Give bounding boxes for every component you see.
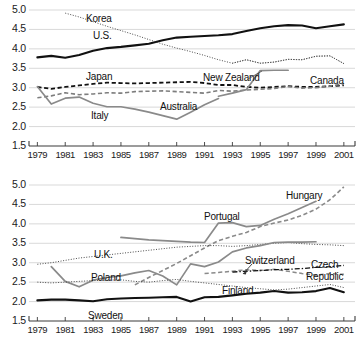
x-tick-label: 1979: [22, 324, 52, 335]
x-tick-label: 1999: [301, 149, 331, 160]
x-tick-label: 1995: [245, 324, 275, 335]
x-tick-label: 1985: [106, 324, 136, 335]
y-tick-label: 3.5: [0, 61, 26, 73]
x-tick-label: 1999: [301, 324, 331, 335]
series-label-republic: Republic: [306, 271, 343, 282]
series-label-italy: Italy: [91, 110, 108, 121]
series-label-australia: Australia: [160, 101, 197, 112]
series-line-u-k: [37, 243, 343, 265]
x-ticks: [37, 317, 343, 321]
x-tick-label: 2001: [329, 149, 359, 160]
y-tick-label: 4.0: [0, 217, 26, 229]
x-tick-label: 1995: [245, 149, 275, 160]
y-tick-label: 4.5: [0, 197, 26, 209]
series-label-finland: Finland: [222, 285, 253, 296]
x-tick-label: 1993: [217, 149, 247, 160]
x-tick-label: 1983: [78, 149, 108, 160]
y-tick-label: 2.0: [0, 295, 26, 307]
series-label-poland: Poland: [91, 272, 121, 283]
x-tick-label: 1989: [162, 149, 192, 160]
axis-lines: [29, 316, 355, 321]
x-tick-label: 1981: [50, 324, 80, 335]
x-tick-label: 1989: [162, 324, 192, 335]
x-tick-label: 1997: [273, 149, 303, 160]
x-tick-label: 1991: [190, 324, 220, 335]
series-label-portugal: Portugal: [204, 211, 240, 222]
x-tick-label: 1983: [78, 324, 108, 335]
y-tick-label: 2.5: [0, 275, 26, 287]
x-tick-label: 1993: [217, 324, 247, 335]
y-tick-label: 4.0: [0, 42, 26, 54]
y-tick-label: 4.5: [0, 22, 26, 34]
series-label-canada: Canada: [310, 75, 344, 86]
series-label-japan: Japan: [86, 71, 112, 82]
axis-lines: [29, 141, 355, 146]
x-ticks: [37, 142, 343, 146]
y-tick-label: 5.0: [0, 178, 26, 190]
y-tick-label: 2.5: [0, 100, 26, 112]
y-tick-label: 2.0: [0, 120, 26, 132]
series-line-sweden: [37, 288, 343, 302]
x-tick-label: 1987: [134, 149, 164, 160]
y-tick-label: 3.0: [0, 256, 26, 268]
y-tick-label: 3.0: [0, 81, 26, 93]
x-tick-label: 1987: [134, 324, 164, 335]
figure-two-stacked-line-charts: 1.52.02.53.03.54.04.55.01979198119831985…: [0, 0, 361, 350]
series-label-czech: Czech: [311, 259, 338, 270]
series-label-u-s: U.S.: [93, 30, 112, 41]
series-label-new-zealand: New Zealand: [203, 72, 260, 83]
x-tick-label: 1997: [273, 324, 303, 335]
x-tick-label: 2001: [329, 324, 359, 335]
x-tick-label: 1981: [50, 149, 80, 160]
series-label-hungary: Hungary: [286, 190, 322, 201]
gridlines: [29, 185, 355, 302]
x-tick-label: 1991: [190, 149, 220, 160]
y-tick-label: 5.0: [0, 3, 26, 15]
series-label-sweden: Sweden: [88, 310, 123, 321]
series-label-korea: Korea: [86, 13, 112, 24]
x-tick-label: 1985: [106, 149, 136, 160]
x-tick-label: 1979: [22, 149, 52, 160]
y-tick-label: 3.5: [0, 236, 26, 248]
series-label-switzerland: Switzerland: [245, 255, 295, 266]
series-label-u-k: U.K.: [94, 249, 113, 260]
